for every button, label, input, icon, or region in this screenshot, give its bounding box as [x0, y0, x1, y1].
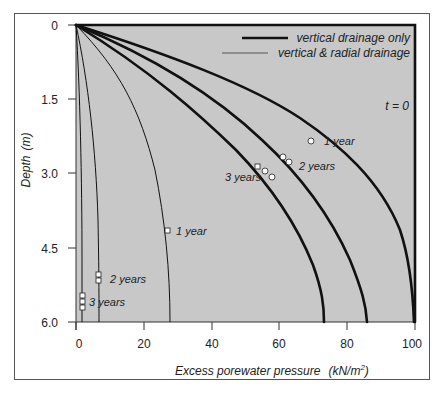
annotation-radial-1-year: 1 year: [176, 225, 208, 237]
legend-thick-label: vertical drainage only: [297, 31, 411, 45]
annotation-t0: t = 0: [385, 99, 409, 113]
annotation-vertical-3-years: 3 years: [225, 171, 262, 183]
y-tick-label: 0: [51, 19, 58, 33]
annotation-vertical-2-years: 2 years: [298, 160, 336, 172]
y-tick-label: 1.5: [41, 93, 58, 107]
x-ticks: 0 20 40 60 80 100: [76, 322, 423, 351]
x-tick-label: 100: [402, 337, 422, 351]
annotation-radial-2-years: 2 years: [109, 273, 147, 285]
y-tick-label: 3.0: [41, 167, 58, 181]
annotation-vertical-1-year: 1 year: [324, 135, 356, 147]
y-tick-label: 4.5: [41, 242, 58, 256]
chart: 0 1.5 3.0 4.5 6.0 0 20 40 60 80 100 Exce…: [0, 0, 445, 396]
y-axis-label: Depth(m): [19, 132, 33, 187]
x-tick-label: 80: [340, 337, 354, 351]
legend-thin-label: vertical & radial drainage: [278, 46, 410, 60]
x-axis-label: Excess porewater pressure(kN/m2): [175, 363, 369, 378]
x-tick-label: 20: [137, 337, 151, 351]
x-tick-label: 40: [205, 337, 219, 351]
y-tick-label: 6.0: [41, 316, 58, 330]
y-ticks: 0 1.5 3.0 4.5 6.0: [41, 19, 76, 330]
x-tick-label: 0: [76, 337, 83, 351]
x-tick-label: 60: [272, 337, 286, 351]
annotation-radial-3-years: 3 years: [89, 296, 126, 308]
